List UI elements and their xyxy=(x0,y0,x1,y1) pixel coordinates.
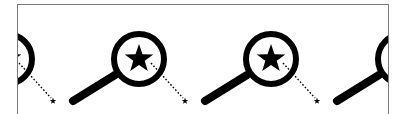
pattern-frame xyxy=(17,4,389,114)
magnifier-star-icon xyxy=(73,34,188,104)
magnifier-star-icon xyxy=(205,34,320,104)
magnifier-star-icon xyxy=(337,34,389,104)
magnifier-star-icon xyxy=(17,34,56,104)
magnifier-pattern xyxy=(17,4,389,114)
